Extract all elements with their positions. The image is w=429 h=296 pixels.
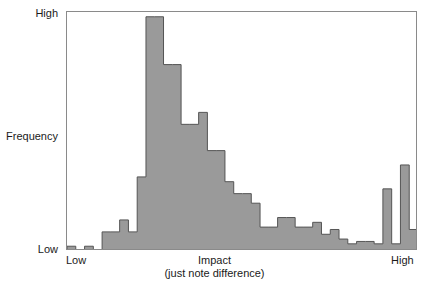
histogram-bar xyxy=(216,151,225,250)
histogram-bar xyxy=(207,151,216,250)
histogram-bar xyxy=(374,244,383,250)
histogram-bar xyxy=(111,232,120,250)
histogram-bar xyxy=(400,165,409,250)
histogram-bar xyxy=(67,246,76,250)
histogram-bar xyxy=(286,218,295,250)
y-axis-tick-high: High xyxy=(35,7,58,19)
histogram-bar xyxy=(155,17,164,250)
chart-figure: High Frequency Low Low Impact (just note… xyxy=(0,0,429,296)
histogram-bar xyxy=(128,232,137,250)
histogram-bar xyxy=(199,112,208,250)
histogram-bar xyxy=(102,232,111,250)
histogram-bar xyxy=(120,220,129,250)
histogram-bar xyxy=(164,65,173,250)
histogram-bar xyxy=(225,182,234,250)
histogram-bar xyxy=(365,241,374,250)
histogram-bar xyxy=(243,194,252,250)
x-axis-title-block: Impact (just note difference) xyxy=(0,254,429,280)
histogram-bar xyxy=(260,227,269,250)
histogram-bar xyxy=(357,241,366,250)
histogram-bar xyxy=(392,244,401,250)
histogram-bar xyxy=(383,189,392,250)
histogram-bar xyxy=(313,222,322,250)
histogram-bar xyxy=(304,227,313,250)
histogram-bar xyxy=(190,124,199,250)
x-axis-tick-high: High xyxy=(391,254,414,267)
histogram-bar xyxy=(269,227,278,250)
histogram-bar xyxy=(251,203,260,250)
histogram-bar xyxy=(146,17,155,250)
histogram-bar xyxy=(137,177,146,250)
plot-area xyxy=(66,11,417,250)
histogram-bar xyxy=(181,124,190,250)
histogram-bar xyxy=(339,239,348,250)
histogram-bar xyxy=(348,244,357,250)
histogram-bar xyxy=(330,229,339,250)
histogram-bars xyxy=(67,12,417,250)
histogram-bar xyxy=(278,218,287,250)
histogram-bar xyxy=(321,234,330,250)
histogram-bar xyxy=(172,65,181,250)
histogram-bar xyxy=(295,227,304,250)
x-axis-subtitle: (just note difference) xyxy=(0,267,429,280)
histogram-bar xyxy=(85,246,94,250)
y-axis-label: Frequency xyxy=(6,130,58,142)
x-axis-title: Impact xyxy=(0,254,429,267)
histogram-bar xyxy=(234,194,243,250)
histogram-bar xyxy=(409,229,417,250)
